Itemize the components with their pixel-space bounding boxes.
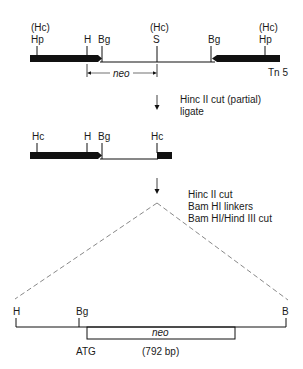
- label-b-bottom: B: [282, 306, 289, 317]
- label-length: (792 bp): [142, 346, 179, 357]
- step2-line2: Bam HI linkers: [188, 201, 253, 212]
- label-tn5: Tn 5: [268, 67, 288, 78]
- tn5-left-arm-mid: [30, 152, 102, 159]
- label-hp-left: Hp: [31, 34, 44, 45]
- tn5-right-arm: [212, 55, 280, 62]
- label-bg-bottom: Bg: [76, 306, 88, 317]
- label-h: H: [84, 34, 91, 45]
- tn5-left-arm: [30, 55, 102, 62]
- label-h-mid: H: [84, 131, 91, 142]
- step2-line1: Hinc II cut: [188, 189, 233, 200]
- label-hc-right-mid: Hc: [151, 131, 163, 142]
- label-hc-mid: (Hc): [150, 22, 169, 33]
- label-hc-right: (Hc): [259, 22, 278, 33]
- step2-line3: Bam HI/Hind III cut: [188, 213, 272, 224]
- neo-span-arrow: neo: [87, 64, 157, 79]
- step1: Hinc II cut (partial) ligate: [155, 94, 262, 117]
- step2: Hinc II cut Bam HI linkers Bam HI/Hind I…: [155, 178, 273, 224]
- tn5-right-stub: [157, 152, 172, 159]
- top-construct: (Hc) Hp H Bg (Hc) S Bg (Hc) Hp neo Tn 5: [30, 22, 288, 79]
- label-hc-left: (Hc): [31, 22, 50, 33]
- label-neo-top: neo: [113, 68, 130, 79]
- neo-cassette-construction-diagram: (Hc) Hp H Bg (Hc) S Bg (Hc) Hp neo Tn 5 …: [0, 0, 303, 369]
- label-bg-mid: Bg: [98, 131, 110, 142]
- arrowhead-2: [155, 189, 160, 194]
- label-atg: ATG: [76, 346, 96, 357]
- label-hc-left-mid: Hc: [32, 131, 44, 142]
- label-bg-right: Bg: [208, 34, 220, 45]
- dashed-line-left: [15, 203, 157, 299]
- label-neo-bottom: neo: [152, 327, 169, 338]
- middle-construct: Hc H Bg Hc: [30, 131, 172, 159]
- step1-line2: ligate: [180, 106, 204, 117]
- step1-line1: Hinc II cut (partial): [180, 94, 261, 105]
- bottom-construct: H Bg B neo ATG (792 bp): [13, 306, 289, 357]
- arrowhead-1: [155, 105, 160, 110]
- label-hp-right: Hp: [259, 34, 272, 45]
- label-h-bottom: H: [13, 306, 20, 317]
- label-bg-left: Bg: [98, 34, 110, 45]
- label-s: S: [153, 34, 160, 45]
